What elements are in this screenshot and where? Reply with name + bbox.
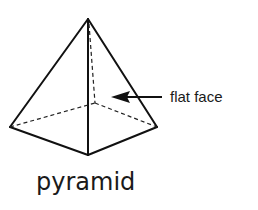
hidden-edge-back-right <box>95 103 157 127</box>
hidden-edge-left-back <box>10 103 95 127</box>
edge-left-front <box>10 127 88 155</box>
flat-face-label: flat face <box>170 88 223 105</box>
pyramid-diagram: flat face pyramid <box>0 0 258 210</box>
edge-front-right <box>88 127 157 155</box>
hidden-edge-apex-back <box>89 24 95 103</box>
edge-apex-left <box>10 19 88 127</box>
edge-apex-right <box>88 19 157 127</box>
shape-name-label: pyramid <box>36 168 135 196</box>
arrow-icon <box>111 91 162 103</box>
